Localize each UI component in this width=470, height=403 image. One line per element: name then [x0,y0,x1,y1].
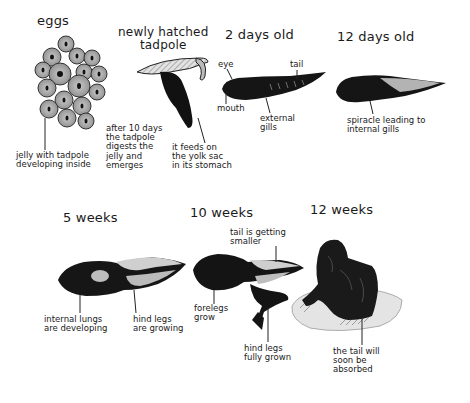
annotation-tail: tail [290,60,303,69]
ten-week-tadpole-drawing [193,246,304,342]
annotation-after-10-days: after 10 days the tadpole digests the je… [106,124,162,170]
stage-title-12-weeks: 12 weeks [310,203,373,217]
annotation-hind-legs-growing: hind legs are growing [133,315,183,333]
eggs-drawing [35,36,107,150]
annotation-internal-lungs: internal lungs are developing [44,315,107,333]
stage-title-newly-hatched: newly hatched tadpole [118,26,209,52]
annotation-external-gills: external gills [260,114,295,132]
stage-title-10-weeks: 10 weeks [190,206,253,220]
twelve-day-tadpole-drawing [336,75,446,114]
stage-title-5-weeks: 5 weeks [63,211,118,225]
annotation-tail-smaller: tail is getting smaller [230,228,286,246]
illustration-layer [0,0,470,403]
annotation-forelegs-grow: forelegs grow [194,304,228,322]
annotation-tail-absorbed: the tail will soon be absorbed [333,347,380,375]
annotation-eye: eye [218,60,234,69]
annotation-spiracle: spiracle leading to internal gills [347,116,425,134]
twelve-week-froglet-drawing [292,240,402,345]
annotation-mouth: mouth [217,104,245,113]
stage-title-eggs: eggs [37,14,69,28]
stage-title-12-days: 12 days old [337,30,415,44]
annotation-jelly: jelly with tadpole developing inside [16,151,91,169]
five-week-tadpole-drawing [58,258,186,314]
stage-title-2-days: 2 days old [225,28,294,42]
annotation-yolk-sac: it feeds on the yolk sac in its stomach [172,143,232,171]
annotation-hind-legs-grown: hind legs fully grown [244,344,291,362]
